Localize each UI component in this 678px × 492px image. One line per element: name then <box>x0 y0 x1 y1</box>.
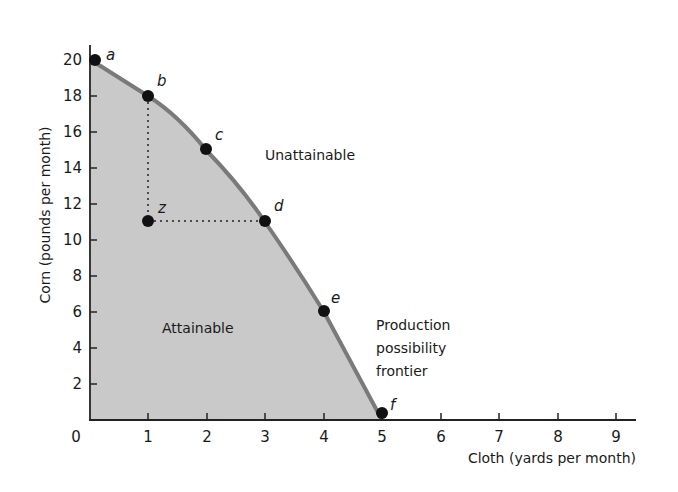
y-tick-label: 12 <box>63 195 82 213</box>
y-tick-label: 16 <box>63 123 82 141</box>
point-label-z: z <box>157 199 167 217</box>
point-e <box>318 305 330 317</box>
y-tick-label: 6 <box>72 303 82 321</box>
x-tick-label: 9 <box>611 428 621 446</box>
x-tick-label: 6 <box>436 428 446 446</box>
y-tick-label: 2 <box>72 375 82 393</box>
attainable-region <box>91 60 382 420</box>
ppf-label-line2: possibility <box>376 340 446 356</box>
point-a <box>89 54 101 66</box>
y-tick-label: 8 <box>72 267 82 285</box>
x-tick-label: 7 <box>494 428 504 446</box>
x-tick-label: 3 <box>260 428 270 446</box>
y-tick-labels: 2 4 6 8 10 12 14 16 18 20 <box>63 51 82 393</box>
unattainable-label: Unattainable <box>265 147 355 163</box>
point-label-b: b <box>157 72 167 90</box>
point-b <box>142 90 154 102</box>
x-tick-label: 1 <box>143 428 153 446</box>
y-tick-label: 18 <box>63 87 82 105</box>
y-axis-title: Corn (pounds per month) <box>37 126 53 303</box>
x-tick-label: 4 <box>319 428 329 446</box>
x-tick-labels: 0 1 2 3 4 5 6 7 8 9 <box>71 428 621 446</box>
point-label-c: c <box>215 126 224 144</box>
y-tick-label: 14 <box>63 159 82 177</box>
point-d <box>259 215 271 227</box>
attainable-label: Attainable <box>162 320 234 336</box>
ppf-label-line3: frontier <box>376 363 428 379</box>
x-tick-label: 2 <box>202 428 212 446</box>
point-f <box>376 407 388 419</box>
point-label-e: e <box>331 289 340 307</box>
ppf-label-line1: Production <box>376 317 450 333</box>
y-tick-label: 20 <box>63 51 82 69</box>
y-tick-label: 4 <box>72 339 82 357</box>
point-label-a: a <box>106 46 115 64</box>
point-label-f: f <box>390 396 398 414</box>
y-tick-label: 10 <box>63 231 82 249</box>
point-label-d: d <box>274 197 284 215</box>
x-axis-title: Cloth (yards per month) <box>468 450 636 466</box>
ppf-chart: 2 4 6 8 10 12 14 16 18 20 0 1 2 3 4 5 6 … <box>0 0 678 492</box>
x-tick-label: 8 <box>553 428 563 446</box>
point-c <box>200 143 212 155</box>
origin-label: 0 <box>71 428 81 446</box>
point-z <box>142 215 154 227</box>
x-tick-label: 5 <box>377 428 387 446</box>
